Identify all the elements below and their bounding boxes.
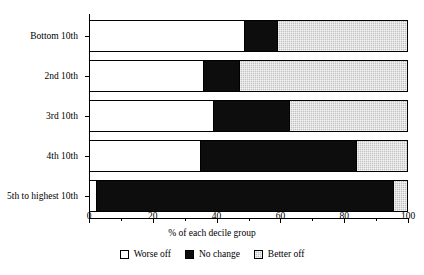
bar-segment-nochange xyxy=(97,181,393,211)
legend-item-worse-off: Worse off xyxy=(120,249,171,259)
x-axis-tick-label-20: 20 xyxy=(138,211,168,222)
bar-segment-nochange xyxy=(245,21,277,51)
y-axis-label-3rd-10th: 3rd 10th xyxy=(0,111,78,121)
bar-segment-nochange xyxy=(201,141,355,171)
x-axis-minor-tick-10 xyxy=(121,218,122,221)
bar-segment-better xyxy=(240,61,407,91)
bar-segment-nochange xyxy=(204,61,239,91)
bar-segment-better xyxy=(278,21,407,51)
y-axis-label-4th-10th: 4th 10th xyxy=(0,151,78,161)
gray-swatch-icon xyxy=(254,250,263,259)
bar-3rd-10th xyxy=(89,100,408,132)
y-axis-labels: Bottom 10th 2nd 10th 3rd 10th 4th 10th 5… xyxy=(0,20,84,212)
bar-segment-worse xyxy=(90,141,200,171)
legend-item-better-off: Better off xyxy=(254,249,305,259)
x-axis-minor-tick-30 xyxy=(185,218,186,221)
legend-label-no-change: No change xyxy=(199,249,240,259)
bar-segment-better xyxy=(290,101,407,131)
plot-area xyxy=(89,14,408,218)
x-axis-minor-tick-70 xyxy=(312,218,313,221)
y-axis-label-2nd-10th: 2nd 10th xyxy=(0,71,78,81)
y-axis-label-5th-to-highest-10th: 5th to highest 10th xyxy=(0,191,78,201)
x-axis-tick-label-0: 0 xyxy=(74,211,104,222)
x-axis-minor-tick-50 xyxy=(249,218,250,221)
bar-segment-worse xyxy=(90,61,203,91)
bar-segment-better xyxy=(357,141,407,171)
stacked-bar-chart: Bottom 10th 2nd 10th 3rd 10th 4th 10th 5… xyxy=(0,0,424,275)
chart-legend: Worse off No change Better off xyxy=(0,249,424,259)
black-swatch-icon xyxy=(185,250,194,259)
bar-2nd-10th xyxy=(89,60,408,92)
bar-5th-to-highest-10th xyxy=(89,180,408,212)
x-axis-tick-label-60: 60 xyxy=(265,211,295,222)
bar-segment-worse xyxy=(90,101,213,131)
legend-item-no-change: No change xyxy=(185,249,240,259)
y-axis-label-bottom-10th: Bottom 10th xyxy=(0,31,78,41)
x-axis-minor-tick-90 xyxy=(376,218,377,221)
x-axis-tick-label-80: 80 xyxy=(329,211,359,222)
x-axis-tick-label-100: 100 xyxy=(393,211,423,222)
legend-label-better-off: Better off xyxy=(268,249,305,259)
bar-bottom-10th xyxy=(89,20,408,52)
bar-segment-nochange xyxy=(214,101,290,131)
bar-4th-10th xyxy=(89,140,408,172)
x-axis-tick-label-40: 40 xyxy=(202,211,232,222)
white-swatch-icon xyxy=(120,250,129,259)
legend-label-worse-off: Worse off xyxy=(134,249,171,259)
bar-segment-worse xyxy=(90,21,244,51)
bar-segment-better xyxy=(394,181,407,211)
x-axis-title: % of each decile group xyxy=(0,228,424,238)
